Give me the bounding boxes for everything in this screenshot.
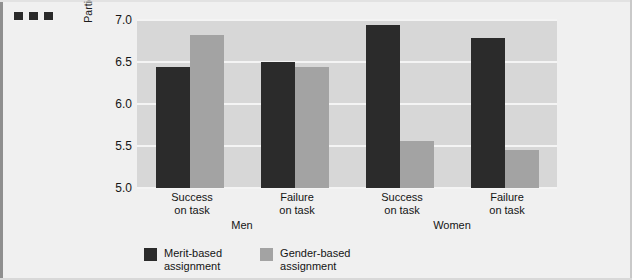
x-category-line2: on task [137,204,247,217]
y-tick-label: 6.0 [115,97,132,111]
legend-swatch-icon [144,248,157,261]
x-category-line1: Failure [452,191,562,204]
x-category-line2: on task [347,204,457,217]
legend-item-merit-based: Merit-based assignment [144,247,222,273]
square-mark-icon [43,11,54,21]
bar [295,67,329,188]
x-category-line2: on task [242,204,352,217]
y-tick-label: 7.0 [115,13,132,27]
x-category-label: Success on task [347,191,457,217]
legend-label-line1: Gender-based [280,247,350,259]
bar [471,38,505,188]
corner-marker-icons [13,11,54,21]
figure-border-left [0,0,3,280]
legend-item-gender-based: Gender-based assignment [260,247,350,273]
x-group-label-men: Men [167,219,317,231]
bar [190,35,224,188]
x-category-line1: Success [137,191,247,204]
legend-label: Gender-based assignment [280,247,350,273]
chart-figure: Participants' self-ratings of leadership… [0,0,632,280]
y-axis-title: Participants' self-ratings of leadership… [78,0,110,48]
x-category-label: Failure on task [452,191,562,217]
bar [505,150,539,188]
legend-swatch-icon [260,248,273,261]
square-mark-icon [13,11,24,21]
plot-area: 7.06.56.05.55.0 [137,20,557,188]
legend-label-line1: Merit-based [164,247,222,259]
gridline: 7.0 [137,19,557,21]
square-mark-icon [28,11,39,21]
bar [261,62,295,188]
y-tick-label: 5.5 [115,139,132,153]
chart-legend: Merit-based assignment Gender-based assi… [144,247,350,273]
x-category-line1: Failure [242,191,352,204]
legend-label-line2: assignment [280,260,336,272]
legend-label: Merit-based assignment [164,247,222,273]
y-tick-label: 5.0 [115,181,132,195]
x-category-line2: on task [452,204,562,217]
x-category-label: Success on task [137,191,247,217]
x-group-label-women: Women [377,219,527,231]
x-category-line1: Success [347,191,457,204]
x-category-label: Failure on task [242,191,352,217]
bar [366,25,400,188]
y-tick-label: 6.5 [115,55,132,69]
bar [400,141,434,188]
bar [156,67,190,188]
legend-label-line2: assignment [164,260,220,272]
